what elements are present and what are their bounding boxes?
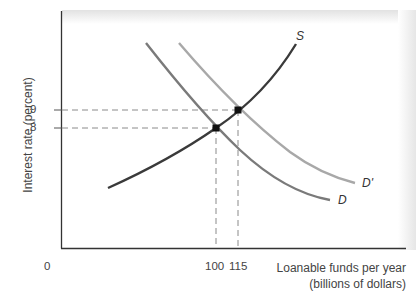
- y-tick-label-9: 9: [30, 103, 36, 115]
- chart-canvas: [0, 0, 416, 291]
- x-tick-label-100: 100: [205, 260, 224, 272]
- origin-label: 0: [44, 260, 50, 272]
- demand-curve-label: D: [338, 193, 347, 207]
- equilibrium-point-new: [235, 107, 242, 114]
- equilibrium-point-initial: [213, 125, 220, 132]
- supply-curve: [108, 44, 296, 188]
- demand-shifted-curve-label: D': [362, 176, 373, 190]
- y-axis-label: Interest rate (percent): [21, 60, 35, 210]
- x-axis-label: Loanable funds per year (billions of dol…: [277, 260, 406, 291]
- y-tick-label-8: 8: [30, 121, 36, 133]
- x-axis-label-line1: Loanable funds per year: [277, 260, 406, 276]
- x-tick-label-115: 115: [229, 260, 247, 272]
- supply-curve-label: S: [296, 29, 304, 43]
- x-axis-label-line2: (billions of dollars): [277, 276, 406, 291]
